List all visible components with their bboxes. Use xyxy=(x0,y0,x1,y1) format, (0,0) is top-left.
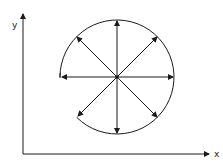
arrow-up-right xyxy=(117,37,157,77)
y-axis-label: y xyxy=(12,20,18,30)
x-axis-label: x xyxy=(214,149,220,159)
diagram-canvas: y x xyxy=(0,0,223,166)
arrow-down-left xyxy=(78,77,117,116)
arrow-up-left xyxy=(77,37,117,77)
center-point xyxy=(115,75,119,79)
arrow-down-right xyxy=(117,77,157,117)
